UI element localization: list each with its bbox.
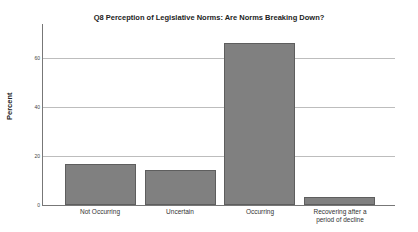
y-tick-0: 0 bbox=[26, 202, 40, 208]
gridline-40 bbox=[43, 107, 395, 108]
x-label-recovering: Recovering after a period of decline bbox=[295, 208, 385, 224]
bar-not-occurring bbox=[65, 164, 136, 205]
x-label-uncertain: Uncertain bbox=[135, 208, 225, 216]
y-tick-40: 40 bbox=[26, 104, 40, 110]
x-label-recovering-line2: period of decline bbox=[295, 216, 385, 224]
y-axis bbox=[42, 24, 43, 206]
y-tick-60: 60 bbox=[26, 55, 40, 61]
x-label-recovering-line1: Recovering after a bbox=[295, 208, 385, 216]
y-tick-20: 20 bbox=[26, 153, 40, 159]
gridline-60 bbox=[43, 58, 395, 59]
bar-uncertain bbox=[145, 170, 216, 205]
bar-recovering bbox=[304, 197, 375, 205]
bar-occurring bbox=[224, 43, 295, 205]
chart-title: Q8 Perception of Legislative Norms: Are … bbox=[0, 13, 418, 22]
gridline-20 bbox=[43, 156, 395, 157]
x-label-occurring: Occurring bbox=[215, 208, 305, 216]
y-axis-label: Percent bbox=[5, 92, 14, 120]
x-label-not-occurring: Not Occurring bbox=[55, 208, 145, 216]
x-axis bbox=[42, 205, 395, 206]
